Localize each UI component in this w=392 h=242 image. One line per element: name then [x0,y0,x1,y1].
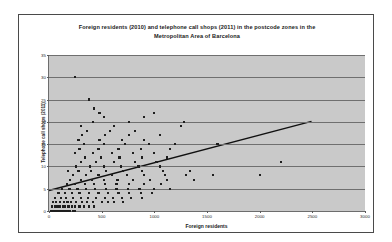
data-point [121,197,123,199]
data-point [78,148,80,150]
chart-title-line-1: Foreign residents (2010) and telephone c… [49,23,345,32]
data-point [143,139,145,141]
data-point [148,143,150,145]
data-point [86,130,88,132]
data-point [72,197,74,199]
data-point [111,174,113,176]
x-tick-label: 1500 [202,214,212,219]
data-point [259,174,261,176]
y-tick-mark [47,55,49,56]
data-point [115,188,117,190]
data-point [65,197,67,199]
data-point [77,170,79,172]
data-point [67,205,69,207]
y-gridline [49,144,365,145]
data-point [78,192,80,194]
y-tick-mark [47,189,49,190]
data-point [141,156,143,158]
data-point [132,152,134,154]
data-point [74,205,76,207]
data-point [103,143,105,145]
data-point [128,121,130,123]
data-point [138,188,140,190]
data-point [216,143,218,145]
data-point [160,183,162,185]
data-point [58,205,60,207]
data-point [85,174,87,176]
data-point [52,201,54,203]
data-point [67,170,69,172]
y-axis-title: Telephone call shops (2011) [41,77,46,187]
data-point [83,143,85,145]
x-tick-mark [260,211,261,213]
data-point [128,192,130,194]
data-point [169,188,171,190]
data-point [80,125,82,127]
data-point [83,205,85,207]
data-point [71,192,73,194]
data-point [84,183,86,185]
data-point [54,197,56,199]
x-tick-label: 2500 [307,214,317,219]
data-point [109,130,111,132]
y-tick-label: 10 [41,164,46,169]
data-point [113,201,115,203]
data-point [128,183,130,185]
data-point [75,201,77,203]
y-tick-label: 5 [44,186,46,191]
data-point [84,156,86,158]
data-point [80,197,82,199]
data-point [94,188,96,190]
data-point [134,161,136,163]
data-point [164,174,166,176]
data-point [81,134,83,136]
x-tick-mark [154,211,155,213]
data-point [97,148,99,150]
data-point [126,174,128,176]
data-point [74,210,76,212]
data-point [104,183,106,185]
data-point [98,112,100,114]
x-tick-mark [102,211,103,213]
y-tick-mark [47,100,49,101]
data-point [189,170,191,172]
data-point [112,197,114,199]
data-point [81,201,83,203]
data-point [103,179,105,181]
y-tick-mark [47,144,49,145]
data-point [88,98,90,100]
data-point [180,125,182,127]
data-point [143,116,145,118]
data-point [183,121,185,123]
x-tick-label: 500 [98,214,105,219]
data-point [80,179,82,181]
data-point [153,152,155,154]
data-point [140,192,142,194]
plot-area: 05101520253035050010001500200025003000 [48,55,365,212]
data-point [85,188,87,190]
x-tick-label: 2000 [255,214,265,219]
data-point [61,188,63,190]
x-tick-label: 3000 [360,214,370,219]
x-tick-label: 1000 [149,214,159,219]
data-point [103,116,105,118]
data-point [212,174,214,176]
data-point [88,205,90,207]
data-point [98,139,100,141]
data-point [77,139,79,141]
data-point [59,201,61,203]
data-point [141,170,143,172]
data-point [66,183,68,185]
y-gridline [49,55,365,56]
x-tick-label: 0 [48,214,50,219]
data-point [280,161,282,163]
data-point [107,201,109,203]
data-point [174,143,176,145]
data-point [74,183,76,185]
data-point [141,197,143,199]
data-point [124,143,126,145]
chart-figure-frame: Foreign residents (2010) and telephone c… [18,14,374,233]
data-point [122,201,124,203]
data-point [151,192,153,194]
data-point [132,179,134,181]
